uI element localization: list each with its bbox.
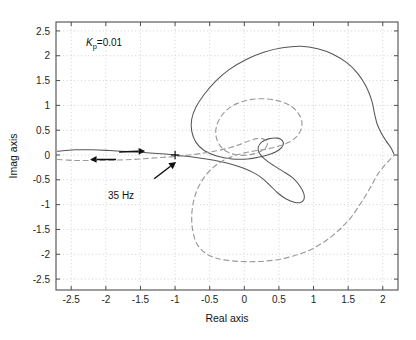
- figure-background: [0, 0, 416, 340]
- nyquist-plot-figure: -2.5-2-1.5-1-0.500.511.522.521.510.50-0.…: [0, 0, 416, 340]
- y-tick-label: -1: [41, 199, 50, 210]
- y-tick-label: 2.5: [36, 26, 50, 37]
- x-tick-label: 1: [311, 294, 317, 305]
- gain-annotation-value: =0.01: [97, 37, 123, 48]
- y-tick-label: 0: [44, 150, 50, 161]
- y-tick-label: 2: [44, 50, 50, 61]
- y-tick-label: -1.5: [33, 224, 51, 235]
- x-tick-label: 1.5: [341, 294, 355, 305]
- x-tick-label: -1.5: [132, 294, 150, 305]
- x-tick-label: 0: [242, 294, 248, 305]
- frequency-annotation-label: 35 Hz: [108, 190, 134, 201]
- y-tick-label: -0.5: [33, 174, 51, 185]
- y-tick-label: 0.5: [36, 125, 50, 136]
- x-tick-label: -0.5: [201, 294, 219, 305]
- y-tick-label: 1.5: [36, 75, 50, 86]
- y-tick-label: -2: [41, 249, 50, 260]
- x-tick-label: 2: [380, 294, 386, 305]
- y-tick-label: -2.5: [33, 274, 51, 285]
- y-axis-title: Imag axis: [7, 134, 19, 179]
- y-tick-label: 1: [44, 100, 50, 111]
- plot-canvas: -2.5-2-1.5-1-0.500.511.522.521.510.50-0.…: [0, 0, 416, 340]
- x-tick-label: -2.5: [63, 294, 81, 305]
- x-tick-label: 0.5: [272, 294, 286, 305]
- x-tick-label: -1: [171, 294, 180, 305]
- x-axis-title: Real axis: [205, 312, 248, 324]
- x-tick-label: -2: [101, 294, 110, 305]
